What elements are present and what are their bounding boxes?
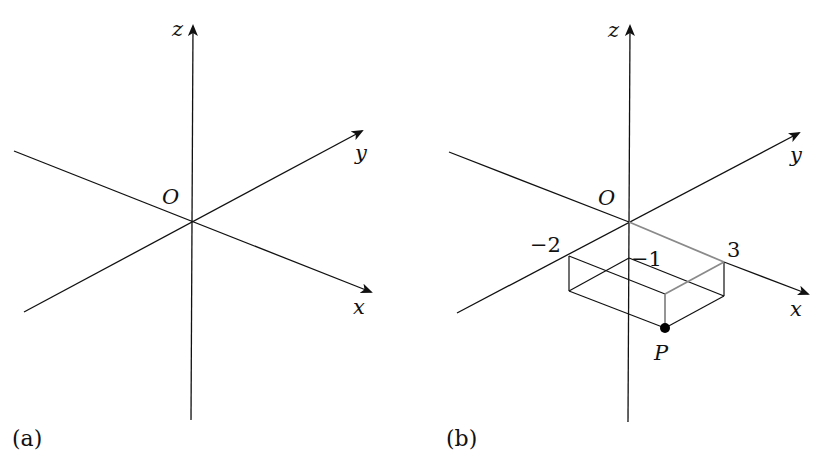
point-p	[660, 323, 670, 333]
y-axis	[24, 131, 362, 312]
tick-label-z: −1	[631, 247, 662, 271]
figure-canvas: z y x O (a)	[0, 0, 825, 465]
panel-b: z y x O −2 −1 3 P (b)	[446, 18, 808, 451]
origin-label: O	[162, 185, 179, 209]
z-axis-label: z	[607, 18, 620, 42]
x-axis-label: x	[353, 295, 365, 319]
tick-label-x: 3	[727, 238, 740, 262]
panel-label-a: (a)	[12, 426, 42, 451]
coordinate-path	[629, 222, 724, 328]
panel-label-b: (b)	[446, 426, 477, 451]
x-axis-label: x	[790, 297, 802, 321]
y-axis-label: y	[354, 141, 368, 165]
point-p-label: P	[653, 341, 669, 365]
y-axis-label: y	[789, 143, 803, 167]
origin-label: O	[598, 186, 615, 210]
y-axis	[457, 133, 799, 313]
z-axis	[628, 26, 630, 422]
z-axis-label: z	[171, 17, 184, 41]
x-axis	[724, 262, 808, 294]
tick-label-y: −2	[530, 233, 561, 257]
panel-a: z y x O (a)	[12, 17, 371, 451]
